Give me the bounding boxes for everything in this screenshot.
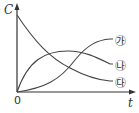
series-b-label: ㉯: [115, 57, 126, 73]
series-c-curve: [17, 15, 110, 81]
series-a-label: ㉮: [115, 32, 126, 48]
y-axis-arrow-icon: [15, 3, 20, 10]
series-b-curve: [17, 51, 110, 92]
x-axis-label: t: [128, 96, 133, 110]
x-axis-arrow-icon: [129, 90, 136, 95]
y-axis-label: C: [4, 3, 13, 17]
series-c-label: ㉰: [115, 74, 126, 90]
origin-label: 0: [14, 94, 21, 107]
